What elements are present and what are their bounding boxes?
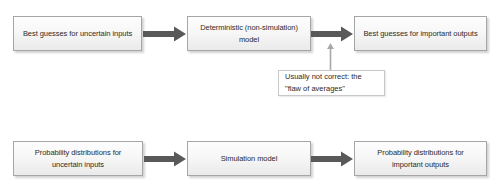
node-probability-distributions-uncertain-inputs[interactable]: Probability distributions for uncertain … — [13, 141, 143, 176]
node-deterministic-model[interactable]: Deterministic (non-simulation) model — [187, 16, 311, 51]
node-label: Best guesses for uncertain inputs — [23, 28, 132, 40]
node-label: Simulation model — [221, 153, 278, 165]
note-label: Usually not correct: the "flaw of averag… — [285, 71, 378, 95]
node-label: Probability distributions for important … — [361, 147, 480, 170]
arrow-bottom-model-to-output-icon — [311, 150, 354, 168]
note-flaw-of-averages[interactable]: Usually not correct: the "flaw of averag… — [278, 70, 385, 96]
node-best-guesses-uncertain-inputs[interactable]: Best guesses for uncertain inputs — [13, 16, 142, 51]
arrow-bottom-input-to-model-icon — [144, 150, 187, 168]
arrow-top-model-to-output-icon — [311, 25, 354, 43]
node-label: Deterministic (non-simulation) model — [194, 22, 304, 45]
node-probability-distributions-important-outputs[interactable]: Probability distributions for important … — [354, 141, 487, 176]
diagram-canvas: Best guesses for uncertain inputs Determ… — [0, 0, 502, 190]
node-label: Probability distributions for uncertain … — [20, 147, 136, 170]
node-simulation-model[interactable]: Simulation model — [187, 141, 311, 176]
arrow-top-input-to-model-icon — [143, 25, 187, 43]
node-best-guesses-important-outputs[interactable]: Best guesses for important outputs — [354, 16, 487, 51]
node-label: Best guesses for important outputs — [363, 28, 477, 40]
arrow-note-to-output-icon — [324, 43, 337, 71]
